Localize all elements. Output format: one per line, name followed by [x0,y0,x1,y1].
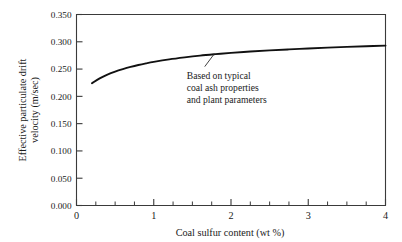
x-tick-label: 1 [151,210,156,221]
y-tick-label: 0.050 [51,174,72,184]
drift-velocity-chart: 0.0000.0500.1000.1500.2000.2500.3000.350… [0,0,402,242]
y-tick-label: 0.350 [51,10,72,20]
annotation-text-line: and plant parameters [187,94,267,105]
y-tick-label: 0.200 [51,92,72,102]
x-tick-label: 4 [383,210,388,221]
y-tick-label: 0.300 [51,37,72,47]
y-axis-title-line-2: velocity (m/sec) [29,77,41,143]
annotation-text-line: Based on typical [187,70,251,81]
y-tick-label: 0.250 [51,64,72,74]
x-tick-label: 0 [74,210,79,221]
y-tick-label: 0.150 [51,119,72,129]
y-axis-title-line-1: Effective particulate drift [17,58,28,161]
x-tick-label: 3 [306,210,311,221]
chart-container: 0.0000.0500.1000.1500.2000.2500.3000.350… [0,0,402,242]
x-tick-label: 2 [228,210,233,221]
annotation-text-line: coal ash properties [187,82,259,93]
x-axis-title: Coal sulfur content (wt %) [176,227,285,239]
y-tick-label: 0.000 [51,201,72,211]
y-tick-label: 0.100 [51,146,72,156]
